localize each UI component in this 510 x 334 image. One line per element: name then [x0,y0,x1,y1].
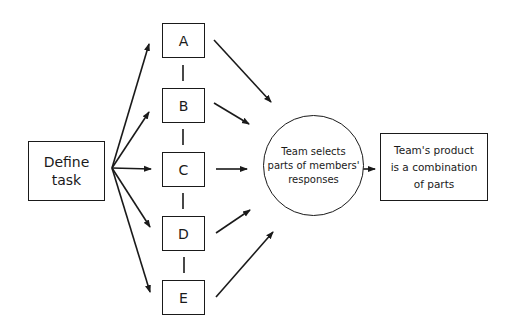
member-box-c: C [162,152,205,187]
arrow-d-to-circle [216,210,250,233]
arrow-a-to-circle [214,40,271,102]
member-label-c: C [179,162,189,178]
define-task-label-line1: Define [44,153,90,171]
define-task-label-line2: task [44,171,90,189]
arrow-b-to-circle [214,103,249,124]
team-selects-circle: Team selects parts of members' responses [263,115,364,216]
member-box-d: D [162,216,205,251]
arrow-define-to-a [112,44,149,168]
product-line3: of parts [391,176,478,193]
member-label-a: A [179,33,189,49]
product-line1: Team's product [391,142,478,159]
selection-line2: parts of members' [268,159,360,173]
member-box-a: A [162,23,205,58]
member-box-e: E [162,280,205,315]
member-box-b: B [162,88,205,123]
member-label-d: D [178,226,189,242]
arrow-define-to-c [112,168,151,169]
product-line2: is a combination [391,159,478,176]
arrow-define-to-b [112,112,149,168]
selection-line3: responses [268,173,360,187]
team-product-box: Team's product is a combination of parts [380,133,488,201]
define-task-box: Define task [28,141,105,201]
arrow-define-to-e [112,168,150,292]
member-label-b: B [179,98,189,114]
selection-line1: Team selects [268,145,360,159]
arrow-e-to-circle [216,232,273,297]
arrow-define-to-d [112,168,150,227]
member-label-e: E [179,290,188,306]
